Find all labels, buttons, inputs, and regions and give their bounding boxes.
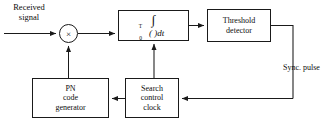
sync-pulse-line2: pulse [303, 63, 320, 72]
sync-pulse-line1: Sync. [283, 63, 301, 72]
integral-icon: ∫ [143, 12, 164, 27]
threshold-detector-line2: detector [223, 26, 255, 35]
pn-code-generator-line2: code [55, 93, 85, 102]
search-control-clock-block[interactable]: Search control clock [125, 78, 179, 118]
integral-differential: dt [157, 28, 164, 38]
pn-code-generator-line3: generator [55, 103, 85, 112]
received-signal-line2: signal [19, 12, 39, 22]
search-control-clock-line3: clock [141, 103, 164, 112]
integral-operand: ( ) [149, 28, 157, 38]
multiplier-node[interactable]: × [59, 24, 78, 43]
threshold-detector-block[interactable]: Threshold detector [207, 9, 271, 42]
block-diagram: Received signal × ∫T0( )dt Threshold det… [0, 0, 322, 126]
received-signal-line1: Received [13, 2, 45, 12]
received-signal-label: Received signal [2, 2, 56, 22]
wire-threshold-output-sync [271, 26, 293, 99]
search-control-clock-line2: control [141, 93, 164, 102]
multiply-icon: × [66, 29, 71, 39]
threshold-detector-line1: Threshold [223, 16, 255, 25]
pn-code-generator-block[interactable]: PN code generator [32, 78, 109, 118]
sync-pulse-label: Sync. pulse [283, 63, 321, 73]
search-control-clock-line1: Search [141, 84, 164, 93]
pn-code-generator-line1: PN [55, 84, 85, 93]
integral-upper-limit: T [139, 23, 142, 29]
integral-expression: ∫T0( )dt [143, 11, 164, 40]
integral-lower-limit: 0 [139, 35, 142, 41]
integrator-block[interactable]: ∫T0( )dt [118, 10, 189, 41]
